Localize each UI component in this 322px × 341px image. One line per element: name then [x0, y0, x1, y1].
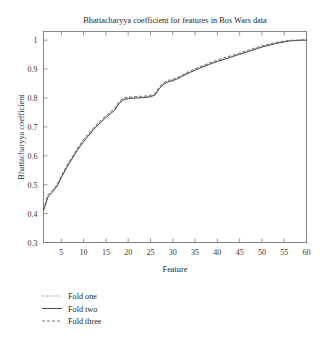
x-tick-label: 60 [303, 248, 311, 257]
x-tick-label: 40 [213, 248, 221, 257]
figure-background [0, 0, 322, 341]
y-tick-label: 0.3 [28, 239, 38, 248]
x-tick-label: 25 [146, 248, 154, 257]
y-tick-label: 0.9 [28, 65, 38, 74]
y-tick-label: 0.4 [28, 210, 38, 219]
legend-label-fold-two: Fold two [68, 305, 97, 314]
chart-title: Bhattacharyya coefficient for features i… [83, 16, 267, 25]
x-axis-title: Feature [163, 265, 188, 274]
y-tick-label: 0.8 [28, 94, 38, 103]
y-axis-title-group: Bhattacharyya coefficient [17, 94, 26, 180]
x-tick-label: 30 [169, 248, 177, 257]
y-axis-title: Bhattacharyya coefficient [17, 94, 26, 180]
x-tick-label: 10 [80, 248, 88, 257]
x-tick-label: 45 [236, 248, 244, 257]
x-tick-label: 55 [280, 248, 288, 257]
bhattacharyya-coefficient-chart: Bhattacharyya coefficient for features i… [0, 0, 322, 341]
y-tick-label: 0.5 [28, 181, 38, 190]
y-tick-label: 0.7 [28, 123, 38, 132]
y-tick-label: 1 [34, 36, 38, 45]
x-tick-label: 35 [191, 248, 199, 257]
x-tick-label: 50 [258, 248, 266, 257]
x-tick-label: 15 [102, 248, 110, 257]
x-tick-label: 20 [124, 248, 132, 257]
y-tick-label: 0.6 [28, 152, 38, 161]
legend-label-fold-three: Fold three [68, 317, 102, 326]
legend-label-fold-one: Fold one [68, 292, 97, 301]
x-tick-label: 5 [59, 248, 63, 257]
